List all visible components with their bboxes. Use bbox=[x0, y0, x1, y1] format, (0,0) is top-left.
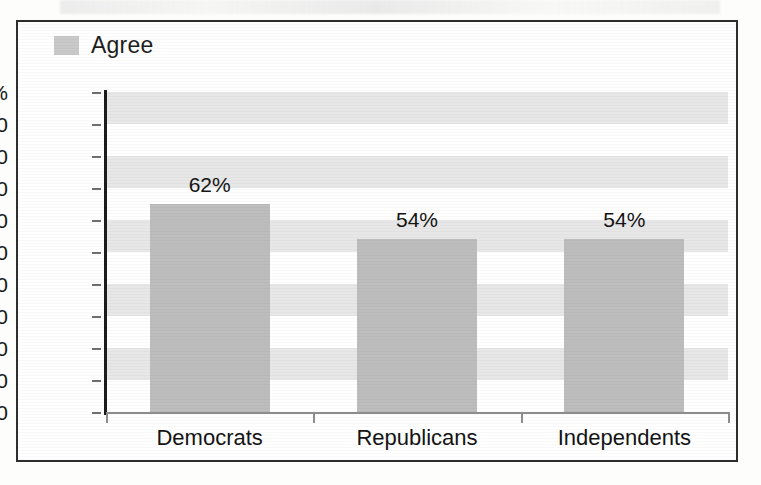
y-tick-label-100: 100% bbox=[0, 82, 8, 103]
y-axis-ticks: 100%9080706050403020100 bbox=[18, 22, 736, 460]
y-tick-label-70: 70 bbox=[0, 178, 8, 199]
y-tick-mark-40 bbox=[92, 284, 101, 286]
category-tick-2 bbox=[521, 412, 523, 423]
category-tick-end bbox=[728, 412, 730, 423]
category-tick-1 bbox=[313, 412, 315, 423]
y-tick-mark-50 bbox=[92, 252, 101, 254]
chart-frame: Agree 62%54%54% 100%9080706050403020100 … bbox=[16, 20, 738, 462]
y-tick-label-90: 90 bbox=[0, 114, 8, 135]
y-tick-mark-0 bbox=[92, 412, 101, 414]
y-tick-label-30: 30 bbox=[0, 306, 8, 327]
y-tick-mark-100 bbox=[92, 92, 101, 94]
category-label-republicans: Republicans bbox=[307, 426, 527, 450]
y-tick-label-40: 40 bbox=[0, 274, 8, 295]
category-tick-0 bbox=[106, 412, 108, 423]
y-tick-mark-80 bbox=[92, 156, 101, 158]
y-tick-label-50: 50 bbox=[0, 242, 8, 263]
y-tick-label-0: 0 bbox=[0, 402, 8, 423]
y-tick-label-20: 20 bbox=[0, 338, 8, 359]
y-tick-label-10: 10 bbox=[0, 370, 8, 391]
y-tick-mark-60 bbox=[92, 220, 101, 222]
y-tick-label-60: 60 bbox=[0, 210, 8, 231]
category-label-independents: Independents bbox=[514, 426, 734, 450]
y-tick-mark-20 bbox=[92, 348, 101, 350]
y-tick-mark-70 bbox=[92, 188, 101, 190]
y-tick-mark-90 bbox=[92, 124, 101, 126]
y-tick-mark-30 bbox=[92, 316, 101, 318]
scan-bleed-artifact-top bbox=[60, 0, 720, 14]
y-tick-mark-10 bbox=[92, 380, 101, 382]
category-label-democrats: Democrats bbox=[100, 426, 320, 450]
y-tick-label-80: 80 bbox=[0, 146, 8, 167]
